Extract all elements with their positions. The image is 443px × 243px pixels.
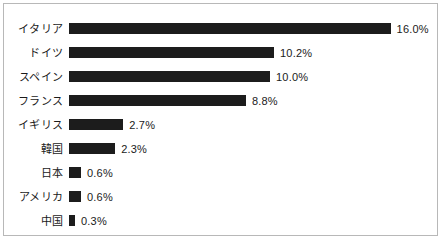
bar-value-label: 2.3%	[121, 137, 147, 161]
bar-value-label: 10.2%	[280, 41, 312, 65]
bar	[69, 167, 81, 178]
bar-track: 0.3%	[69, 209, 437, 233]
category-label: スペイン	[19, 65, 63, 89]
chart-frame: イタリア16.0%ドイツ10.2%スペイン10.0%フランス8.8%イギリス2.…	[3, 3, 438, 236]
bar-row: スペイン10.0%	[4, 65, 437, 89]
bar	[69, 143, 115, 154]
bar-row: アメリカ0.6%	[4, 185, 437, 209]
bar-track: 2.3%	[69, 137, 437, 161]
bar-chart-plot-area: イタリア16.0%ドイツ10.2%スペイン10.0%フランス8.8%イギリス2.…	[4, 4, 437, 235]
bar	[69, 215, 75, 226]
category-label: ドイツ	[29, 41, 63, 65]
bar-track: 8.8%	[69, 89, 437, 113]
bar-track: 10.0%	[69, 65, 437, 89]
category-label: 日本	[41, 161, 63, 185]
bar	[69, 47, 274, 58]
bar-row: 日本0.6%	[4, 161, 437, 185]
bar-track: 10.2%	[69, 41, 437, 65]
bar-track: 0.6%	[69, 185, 437, 209]
bar-value-label: 0.3%	[81, 209, 107, 233]
bar-value-label: 0.6%	[87, 161, 113, 185]
bar-row: イタリア16.0%	[4, 17, 437, 41]
category-label: 中国	[41, 209, 63, 233]
category-label: イタリア	[18, 17, 63, 41]
bar	[69, 191, 81, 202]
bar-row: フランス8.8%	[4, 89, 437, 113]
bar-value-label: 2.7%	[129, 113, 155, 137]
category-label: アメリカ	[19, 185, 63, 209]
bar-row: ドイツ10.2%	[4, 41, 437, 65]
category-label: イギリス	[18, 113, 63, 137]
bar-value-label: 10.0%	[276, 65, 308, 89]
bar-value-label: 16.0%	[397, 17, 429, 41]
bar-value-label: 8.8%	[252, 89, 278, 113]
bar-track: 0.6%	[69, 161, 437, 185]
bar-track: 16.0%	[69, 17, 437, 41]
category-label: フランス	[18, 89, 63, 113]
bar-value-label: 0.6%	[87, 185, 113, 209]
bar	[69, 95, 246, 106]
bar	[69, 71, 270, 82]
bar-row: イギリス2.7%	[4, 113, 437, 137]
bar-row: 韓国2.3%	[4, 137, 437, 161]
bar-track: 2.7%	[69, 113, 437, 137]
category-label: 韓国	[41, 137, 63, 161]
bar	[69, 119, 123, 130]
bar	[69, 23, 391, 34]
bar-row: 中国0.3%	[4, 209, 437, 233]
